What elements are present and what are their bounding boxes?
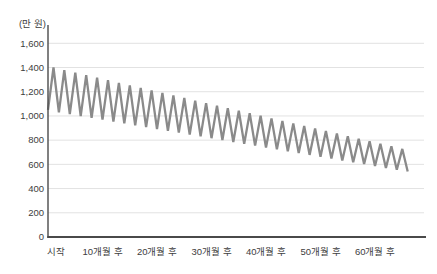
y-tick-label: 200 bbox=[28, 207, 44, 218]
y-tick-label: 0 bbox=[39, 231, 44, 242]
y-tick-label: 800 bbox=[28, 134, 44, 145]
y-tick-label: 1,000 bbox=[20, 110, 44, 121]
x-tick-label: 50개월 후 bbox=[300, 246, 340, 257]
line-chart-canvas: 02004006008001,0001,2001,4001,600시작10개월 … bbox=[0, 0, 437, 274]
chart: (만 원) 02004006008001,0001,2001,4001,600시… bbox=[0, 0, 437, 274]
x-tick-label: 시작 bbox=[47, 246, 65, 257]
x-tick-label: 60개월 후 bbox=[355, 246, 395, 257]
y-tick-label: 1,200 bbox=[20, 86, 44, 97]
x-tick-label: 20개월 후 bbox=[137, 246, 177, 257]
y-tick-label: 400 bbox=[28, 183, 44, 194]
data-series-line bbox=[48, 68, 408, 172]
y-tick-label: 1,600 bbox=[20, 38, 44, 49]
x-tick-label: 40개월 후 bbox=[246, 246, 286, 257]
x-tick-label: 30개월 후 bbox=[191, 246, 231, 257]
y-tick-label: 600 bbox=[28, 159, 44, 170]
x-tick-label: 10개월 후 bbox=[82, 246, 122, 257]
y-tick-label: 1,400 bbox=[20, 62, 44, 73]
